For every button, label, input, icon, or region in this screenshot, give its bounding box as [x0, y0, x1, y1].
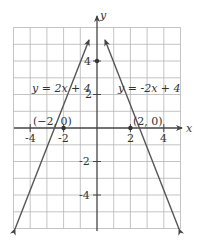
x-axis-label: x	[186, 122, 193, 135]
point-0-4	[95, 59, 99, 63]
y-tick-label: 4	[84, 55, 91, 68]
coordinate-plane: y x -4 -2 2 4 4 2 -2 -4 y = 2x + 4 y = -…	[0, 0, 202, 243]
x-tick-label: 2	[127, 132, 134, 145]
x-tick-label: -4	[25, 132, 36, 145]
point-label-right: (2, 0)	[133, 115, 163, 128]
x-tick-label: -2	[58, 132, 69, 145]
point-label-left: (−2, 0)	[33, 115, 72, 128]
line-y-neg2x-plus-4	[105, 40, 179, 229]
equation-label-right: y = -2x + 4	[117, 82, 181, 95]
x-tick-label: 4	[160, 132, 167, 145]
y-tick-label: -2	[79, 155, 90, 168]
y-tick-label: -4	[79, 189, 90, 202]
y-axis-label: y	[99, 9, 107, 22]
point-2-0	[128, 126, 132, 130]
equation-label-left: y = 2x + 4	[31, 82, 91, 95]
